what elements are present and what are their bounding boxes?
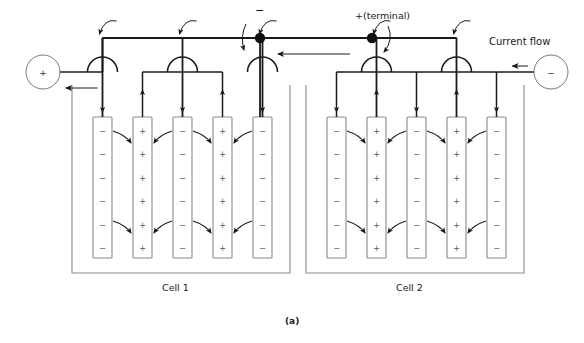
charge-symbol: + <box>453 174 460 183</box>
negative-polarity-circle-sign: − <box>547 68 555 78</box>
charge-symbol: − <box>333 174 340 183</box>
ion-arrow <box>468 221 486 233</box>
charge-symbol: − <box>179 244 186 253</box>
charge-symbol: − <box>99 174 106 183</box>
plate <box>173 117 192 258</box>
charge-symbol: − <box>259 244 266 253</box>
charge-symbol: − <box>99 221 106 230</box>
figure-canvas: −−−−−−++++++−−−−−−++++++−−−−−−−−−−−−++++… <box>0 0 584 343</box>
plate <box>487 117 506 258</box>
ion-arrow <box>234 221 252 233</box>
plate <box>93 117 112 258</box>
charge-symbol: − <box>99 127 106 136</box>
charge-symbol: + <box>219 174 226 183</box>
charge-symbol: − <box>333 244 340 253</box>
charge-symbol: − <box>179 221 186 230</box>
plate <box>253 117 272 258</box>
positive-terminal-dot <box>367 33 377 43</box>
charge-symbol: + <box>219 221 226 230</box>
charge-symbol: + <box>139 197 146 206</box>
charge-symbol: − <box>179 150 186 159</box>
figure-caption: (a) <box>285 316 299 326</box>
charge-symbol: + <box>139 174 146 183</box>
charge-symbol: − <box>99 150 106 159</box>
charge-symbol: − <box>179 197 186 206</box>
charge-symbol: + <box>219 150 226 159</box>
ion-arrow <box>388 131 406 143</box>
ion-flow-arrows <box>113 131 486 233</box>
charge-symbol: + <box>139 150 146 159</box>
current-flow-label: Current flow <box>489 36 550 47</box>
negative-dot-arrow <box>242 24 246 50</box>
charge-symbol: + <box>373 174 380 183</box>
charge-symbol: − <box>179 127 186 136</box>
charge-symbol: − <box>493 127 500 136</box>
charge-symbol: − <box>413 150 420 159</box>
charge-symbol: − <box>179 174 186 183</box>
rail-entry-arrow <box>260 21 277 34</box>
charge-symbol: − <box>413 197 420 206</box>
charge-symbol: − <box>99 197 106 206</box>
electrode-plates <box>93 117 506 258</box>
ion-arrow <box>154 221 172 233</box>
ion-arrow <box>388 221 406 233</box>
charge-symbol: + <box>373 150 380 159</box>
charge-symbol: + <box>219 244 226 253</box>
ion-arrow <box>154 131 172 143</box>
charge-symbol: − <box>413 127 420 136</box>
battery-schematic-svg: −−−−−−++++++−−−−−−++++++−−−−−−−−−−−−++++… <box>0 0 584 343</box>
charge-symbol: − <box>493 150 500 159</box>
charge-symbol: − <box>259 197 266 206</box>
charge-symbol: + <box>453 197 460 206</box>
negative-terminal-dot <box>255 33 265 43</box>
ion-arrow <box>468 131 486 143</box>
charge-symbol: − <box>413 244 420 253</box>
current-arrows <box>66 21 528 112</box>
charge-symbol: − <box>493 244 500 253</box>
charge-symbol: + <box>373 244 380 253</box>
charge-symbol: − <box>333 197 340 206</box>
plate <box>327 117 346 258</box>
rail-entry-arrow <box>180 21 197 34</box>
charge-symbol: − <box>99 244 106 253</box>
rail-entry-arrow <box>454 21 471 34</box>
negative-terminal-sign: − <box>255 4 264 17</box>
cell2-label: Cell 2 <box>396 282 423 293</box>
charge-symbol: − <box>259 127 266 136</box>
bus-wiring <box>60 38 534 117</box>
charge-symbol: + <box>373 127 380 136</box>
ion-arrow <box>193 131 211 143</box>
rail-entry-arrow <box>100 21 117 34</box>
charge-symbol: − <box>413 174 420 183</box>
charge-symbol: + <box>219 197 226 206</box>
ion-arrow <box>427 131 445 143</box>
ion-arrow <box>347 221 365 233</box>
charge-symbol: − <box>333 221 340 230</box>
cell1-label: Cell 1 <box>162 282 189 293</box>
charge-symbol: + <box>453 221 460 230</box>
ion-arrow <box>113 221 131 233</box>
plate <box>367 117 386 258</box>
charge-symbol: − <box>259 221 266 230</box>
charge-symbol: − <box>493 221 500 230</box>
charge-symbol: − <box>259 174 266 183</box>
ion-arrow <box>234 131 252 143</box>
ion-arrow <box>427 221 445 233</box>
rail-entry-arrow <box>374 21 391 34</box>
charge-symbol: + <box>139 244 146 253</box>
charge-symbol: − <box>259 150 266 159</box>
charge-symbol: + <box>373 197 380 206</box>
ion-arrow <box>193 221 211 233</box>
plate <box>213 117 232 258</box>
ion-arrow <box>347 131 365 143</box>
positive-polarity-circle-sign: + <box>39 68 47 78</box>
charge-symbol: + <box>453 244 460 253</box>
plate <box>407 117 426 258</box>
charge-symbol: − <box>413 221 420 230</box>
ion-arrow <box>113 131 131 143</box>
charge-symbol: − <box>493 197 500 206</box>
plate <box>447 117 466 258</box>
charge-symbol: − <box>333 127 340 136</box>
charge-symbol: + <box>139 127 146 136</box>
plate <box>133 117 152 258</box>
